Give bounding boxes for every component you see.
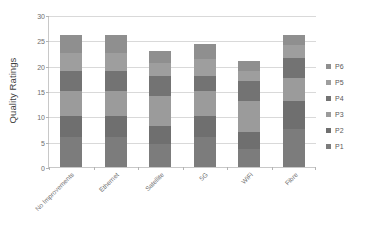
plot-area xyxy=(48,16,316,168)
y-tick-label: 15 xyxy=(37,89,45,96)
bar-segment-p1[interactable] xyxy=(60,137,82,167)
legend-label: P3 xyxy=(335,111,344,118)
bar-segment-p5[interactable] xyxy=(238,71,260,81)
legend-item-p6[interactable]: P6 xyxy=(326,58,366,74)
y-tick-label: 25 xyxy=(37,38,45,45)
y-tick-label: 10 xyxy=(37,114,45,121)
bar-segment-p4[interactable] xyxy=(194,76,216,91)
bar-segment-p2[interactable] xyxy=(194,116,216,136)
chart-legend: P6P5P4P3P2P1 xyxy=(326,58,366,154)
legend-label: P6 xyxy=(335,63,344,70)
x-tick-label: Satellite xyxy=(143,171,164,192)
bar-stack[interactable] xyxy=(194,44,216,167)
bar-segment-p4[interactable] xyxy=(283,58,305,78)
y-tick-label: 5 xyxy=(41,139,45,146)
bar-segment-p6[interactable] xyxy=(238,61,260,71)
x-label-slot: No Improvements xyxy=(48,169,93,214)
bar-slot xyxy=(272,16,317,167)
bar-segment-p1[interactable] xyxy=(238,149,260,167)
bar-segment-p2[interactable] xyxy=(105,116,127,136)
bar-segment-p3[interactable] xyxy=(238,101,260,131)
bar-segment-p4[interactable] xyxy=(238,81,260,101)
bar-stack[interactable] xyxy=(105,35,127,167)
y-axis-title: Quality Ratings xyxy=(0,0,26,180)
x-tick-label: Fibre xyxy=(283,171,298,186)
x-label-slot: WiFi xyxy=(227,169,272,214)
bar-segment-p5[interactable] xyxy=(194,59,216,76)
bar-segment-p5[interactable] xyxy=(283,45,305,58)
bar-segment-p6[interactable] xyxy=(283,35,305,45)
legend-item-p3[interactable]: P3 xyxy=(326,106,366,122)
bar-segment-p3[interactable] xyxy=(60,91,82,116)
bar-stack[interactable] xyxy=(149,51,171,167)
legend-item-p4[interactable]: P4 xyxy=(326,90,366,106)
legend-item-p2[interactable]: P2 xyxy=(326,122,366,138)
bar-segment-p2[interactable] xyxy=(238,132,260,150)
bar-segment-p3[interactable] xyxy=(149,96,171,126)
x-axis-tick-labels: No ImprovementsEthernetSatellite5GWiFiFi… xyxy=(48,169,316,214)
y-axis-tick-labels: 051015202530 xyxy=(26,16,48,168)
bar-segment-p6[interactable] xyxy=(60,35,82,53)
bar-segment-p3[interactable] xyxy=(194,91,216,116)
bar-segment-p1[interactable] xyxy=(149,144,171,167)
bar-segment-p2[interactable] xyxy=(149,126,171,144)
x-tick-label: 5G xyxy=(198,171,209,182)
legend-item-p5[interactable]: P5 xyxy=(326,74,366,90)
bar-segment-p1[interactable] xyxy=(105,137,127,167)
x-tick-label: WiFi xyxy=(240,171,254,185)
bar-stack[interactable] xyxy=(283,35,305,167)
bar-segment-p1[interactable] xyxy=(283,129,305,167)
bar-segment-p5[interactable] xyxy=(105,53,127,71)
bar-slot xyxy=(138,16,183,167)
bar-segment-p4[interactable] xyxy=(60,71,82,91)
y-tick-label: 20 xyxy=(37,63,45,70)
y-tick-label: 0 xyxy=(41,165,45,172)
bar-segment-p3[interactable] xyxy=(283,78,305,101)
bar-stack[interactable] xyxy=(238,61,260,167)
bar-segment-p6[interactable] xyxy=(149,51,171,64)
x-tick-label: No Improvements xyxy=(34,171,75,212)
y-tick-label: 30 xyxy=(37,13,45,20)
bar-stack[interactable] xyxy=(60,35,82,167)
legend-label: P5 xyxy=(335,79,344,86)
bar-slot xyxy=(94,16,139,167)
bar-slot xyxy=(183,16,228,167)
bar-slot xyxy=(227,16,272,167)
bar-segment-p2[interactable] xyxy=(283,101,305,129)
bar-segment-p4[interactable] xyxy=(149,76,171,96)
y-axis-title-text: Quality Ratings xyxy=(8,57,19,123)
x-label-slot: Satellite xyxy=(137,169,182,214)
legend-label: P2 xyxy=(335,127,344,134)
bar-segment-p3[interactable] xyxy=(105,91,127,116)
legend-swatch-icon xyxy=(326,128,331,133)
bar-segment-p1[interactable] xyxy=(194,137,216,167)
legend-label: P1 xyxy=(335,143,344,150)
bar-segment-p6[interactable] xyxy=(194,44,216,59)
bar-slot xyxy=(49,16,94,167)
bar-segment-p5[interactable] xyxy=(60,53,82,71)
legend-item-p1[interactable]: P1 xyxy=(326,138,366,154)
legend-swatch-icon xyxy=(326,96,331,101)
bar-segment-p4[interactable] xyxy=(105,71,127,91)
bar-segment-p5[interactable] xyxy=(149,63,171,76)
bar-segment-p2[interactable] xyxy=(60,116,82,136)
x-label-slot: Ethernet xyxy=(93,169,138,214)
bar-segment-p6[interactable] xyxy=(105,35,127,53)
x-label-slot: 5G xyxy=(182,169,227,214)
legend-swatch-icon xyxy=(326,144,331,149)
bars-layer xyxy=(49,16,316,167)
x-tick-label: Ethernet xyxy=(98,171,120,193)
legend-swatch-icon xyxy=(326,64,331,69)
legend-swatch-icon xyxy=(326,112,331,117)
x-label-slot: Fibre xyxy=(271,169,316,214)
legend-label: P4 xyxy=(335,95,344,102)
stacked-bar-chart: Quality Ratings 051015202530 No Improvem… xyxy=(0,0,367,227)
legend-swatch-icon xyxy=(326,80,331,85)
